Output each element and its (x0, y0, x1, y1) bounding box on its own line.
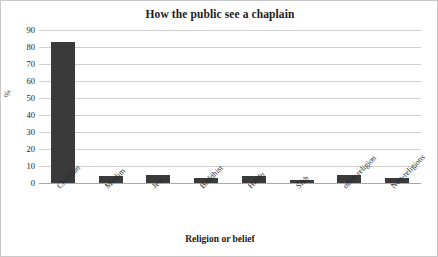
y-axis-tick-label: 50 (27, 93, 36, 103)
y-axis-tick-label: 40 (27, 110, 36, 120)
x-axis-title: Religion or belief (1, 234, 438, 244)
y-axis-tick-label: 0 (31, 178, 35, 188)
y-axis-title: % (3, 90, 12, 97)
x-axis-tick-labels: ChristianMuslimJewBuddhistHinduSikhother… (39, 184, 421, 230)
y-axis-tick-label: 30 (27, 127, 36, 137)
y-axis-tick-label: 70 (27, 59, 36, 69)
chart-title: How the public see a chaplain (1, 8, 438, 20)
y-axis-tick-label: 10 (27, 161, 36, 171)
y-axis-tick-label: 80 (27, 42, 36, 52)
chart-container: How the public see a chaplain % 01020304… (0, 0, 438, 257)
y-axis-tick-label: 90 (27, 25, 36, 35)
y-axis-tick-label: 60 (27, 76, 36, 86)
bar (51, 42, 75, 183)
y-axis-tick-label: 20 (27, 144, 36, 154)
